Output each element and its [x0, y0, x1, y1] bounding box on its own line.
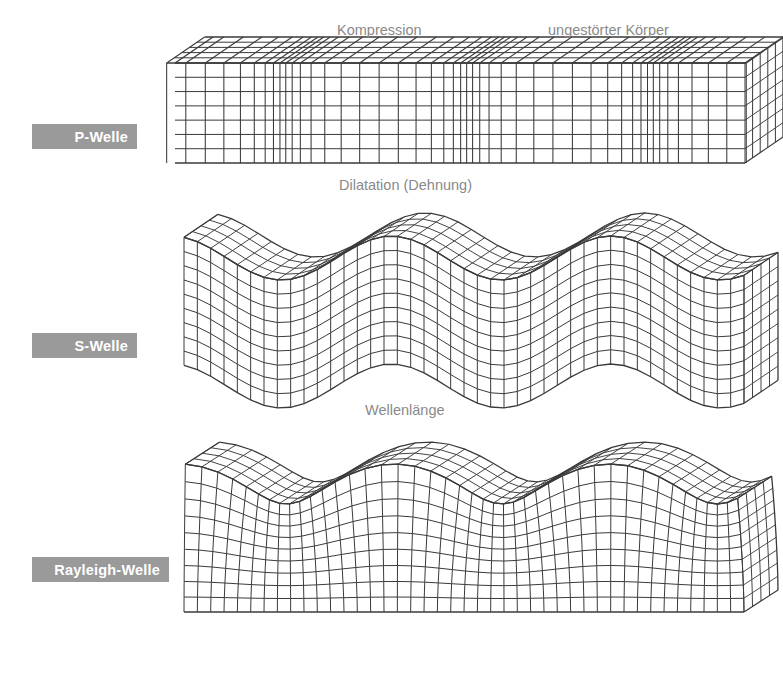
p-end-row — [745, 137, 783, 163]
p-end-row — [745, 51, 783, 77]
p-top-depth-line — [292, 37, 330, 63]
s-wave-block-top-depth-line — [664, 234, 698, 257]
rayleigh-wave-block-front-column — [548, 483, 557, 612]
s-wave-block-top-depth-line — [517, 255, 551, 278]
s-wave-block-front-row — [184, 336, 744, 380]
p-top-depth-line — [746, 37, 783, 63]
s-wave-block-top-depth-line — [357, 223, 391, 246]
rayleigh-wave-block-end-row — [740, 500, 774, 522]
s-wave-block-top-depth-line — [504, 257, 538, 280]
annotation-kompression: Kompression — [337, 22, 422, 38]
s-wave-block-top-depth-line — [264, 254, 298, 277]
rayleigh-wave-block-end-row — [744, 590, 778, 612]
p-top-depth-line — [273, 37, 311, 63]
s-wave-block-top-rail — [201, 225, 761, 269]
s-wave-block — [184, 213, 778, 408]
s-wave-block-front-row — [184, 364, 744, 408]
p-top-depth-line — [224, 37, 262, 63]
s-wave-block-front-row — [184, 350, 744, 394]
p-top-depth-line — [398, 37, 436, 63]
rayleigh-wave-block-top-depth-line — [727, 481, 761, 503]
rayleigh-wave-block-top-depth-line — [697, 476, 731, 498]
p-top-depth-line — [678, 37, 716, 63]
rayleigh-wave-block-top-depth-line — [673, 462, 707, 484]
rayleigh-wave-block-front-column — [322, 490, 331, 612]
p-top-depth-line — [692, 37, 730, 63]
p-top-depth-line — [473, 37, 511, 63]
rayleigh-wave-block-end-row — [739, 488, 773, 510]
rayleigh-wave-block-front-row — [184, 597, 744, 598]
annotation-dilatation-dehnung: Dilatation (Dehnung) — [339, 177, 472, 193]
p-top-depth-line — [633, 37, 671, 63]
rayleigh-wave-block-front-column — [664, 484, 673, 612]
annotation-ungestoerter-koerper: ungestörter Körper — [548, 22, 669, 38]
s-wave-block-end-row — [744, 323, 778, 346]
rayleigh-wave-block-front-column — [624, 466, 628, 612]
rayleigh-wave-block-left-edge — [185, 442, 219, 464]
rayleigh-wave-block-top-depth-line — [280, 481, 314, 503]
rayleigh-wave-block-end-row — [741, 525, 775, 547]
rayleigh-wave-block-top-rail — [202, 453, 754, 493]
p-top-depth-line — [572, 37, 610, 63]
p-top-depth-line — [653, 37, 691, 63]
s-wave-block-top-rail — [218, 213, 778, 257]
s-wave-block-top-depth-line — [237, 242, 271, 265]
rayleigh-wave-block-top-depth-line — [578, 447, 612, 469]
rayleigh-wave-block-top-depth-line — [415, 444, 449, 466]
rayleigh-wave-block-end-row — [743, 550, 777, 572]
rayleigh-wave-block-front-column — [503, 504, 504, 612]
rayleigh-wave-block-front-column — [704, 503, 707, 612]
p-top-depth-line — [300, 37, 338, 63]
s-wave-block-top-depth-line — [224, 233, 258, 256]
rayleigh-wave-block-front-column — [310, 496, 317, 612]
rayleigh-wave-block-top-depth-line — [513, 480, 547, 502]
s-wave-block-top-depth-line — [731, 256, 765, 279]
rayleigh-wave-block-top-depth-line — [335, 460, 369, 482]
rayleigh-wave-block-front-column — [335, 482, 344, 612]
rayleigh-wave-block-front-column — [563, 476, 571, 612]
rayleigh-wave-block-end-column — [772, 476, 778, 590]
rayleigh-wave-block-front-column — [464, 493, 472, 612]
s-wave-block-top-depth-line — [704, 255, 738, 278]
s-wave-block-top-depth-line — [411, 216, 445, 239]
s-wave-block-top-depth-line — [277, 257, 311, 280]
s-wave-block-end-row — [744, 338, 778, 361]
rayleigh-wave-block-top-depth-line — [300, 479, 334, 501]
p-top-depth-line — [205, 37, 243, 63]
rayleigh-wave-block-top-depth-line — [349, 453, 383, 475]
rayleigh-wave-block-front-column — [524, 497, 531, 612]
rayleigh-wave-block-front-column — [594, 465, 597, 612]
rayleigh-wave-block-top-depth-line — [659, 455, 693, 477]
rayleigh-wave-block-front-column — [197, 467, 202, 612]
rayleigh-wave-block-front-row — [185, 516, 741, 538]
s-wave-block-end-row — [744, 380, 778, 403]
rayleigh-wave-block-top-depth-line — [258, 472, 292, 494]
wave-label-p-welle: P-Welle — [32, 124, 137, 149]
rayleigh-wave-block-top-depth-line — [246, 465, 280, 487]
rayleigh-wave-block-front-column — [237, 487, 246, 612]
p-top-depth-line — [501, 37, 539, 63]
rayleigh-wave-block-top-depth-line — [202, 445, 236, 467]
p-top-depth-line — [311, 37, 349, 63]
rayleigh-wave-block-front-row — [185, 481, 739, 515]
rayleigh-wave-block-front-row — [184, 549, 742, 561]
rayleigh-wave-block-front-row — [185, 533, 742, 550]
rayleigh-wave-block-top-depth-line — [472, 471, 506, 493]
rayleigh-wave-block-end-column — [755, 487, 761, 601]
rayleigh-wave-block-top-depth-line — [218, 450, 252, 472]
s-wave-block-left-edge — [184, 214, 218, 237]
s-wave-block-top-rail — [193, 230, 753, 274]
p-top-depth-line — [648, 37, 686, 63]
s-wave-block-top-depth-line — [464, 246, 498, 269]
s-wave-block-top-depth-line — [477, 252, 511, 275]
rayleigh-wave-block-front-column — [290, 504, 291, 612]
p-top-depth-line — [167, 37, 205, 63]
p-end-row — [745, 108, 783, 134]
rayleigh-wave-block-top-rail — [185, 464, 737, 504]
rayleigh-wave-block-end-row — [738, 476, 772, 498]
rayleigh-wave-block-end-row — [741, 512, 775, 534]
p-top-depth-line — [453, 37, 491, 63]
s-wave-block-top-depth-line — [344, 230, 378, 253]
p-end-row — [745, 80, 783, 106]
rayleigh-wave-block-front-column — [381, 465, 384, 612]
